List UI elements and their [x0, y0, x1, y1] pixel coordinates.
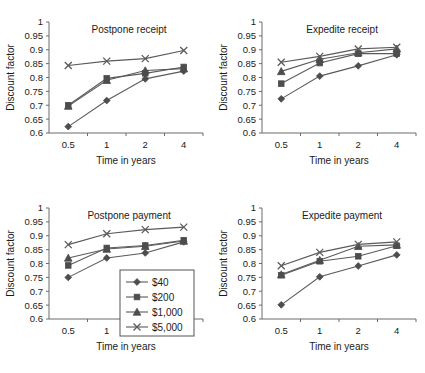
y-tick-label: 0.85 — [238, 244, 257, 255]
y-tick-label: 0.9 — [30, 230, 43, 241]
chart-svg-expedite-payment: 10.950.90.850.80.750.70.650.60.5124Time … — [213, 186, 425, 372]
data-point-square — [134, 294, 140, 300]
chart-panel-expedite-payment: 10.950.90.850.80.750.70.650.60.5124Time … — [213, 186, 425, 372]
data-point-diamond — [103, 255, 110, 262]
data-point-square — [355, 253, 361, 259]
y-tick-label: 0.8 — [243, 258, 256, 269]
x-tick-label: 2 — [356, 139, 361, 150]
chart-body-2: 10.950.90.850.80.750.70.650.60.5124Time … — [5, 202, 203, 352]
chart-body-0: 10.950.90.850.80.750.70.650.60.5124Time … — [5, 16, 203, 166]
x-tick-label: 1 — [104, 139, 109, 150]
y-axis-title: Discount factor — [5, 229, 16, 296]
series-line-40 — [281, 255, 397, 305]
legend-entry-label: $1,000 — [152, 307, 183, 318]
x-tick-label: 0.5 — [62, 325, 75, 336]
chart-svg-postpone-receipt: 10.950.90.850.80.750.70.650.60.5124Time … — [0, 0, 212, 186]
x-tick-label: 0.5 — [275, 325, 288, 336]
y-tick-label: 0.6 — [243, 313, 256, 324]
chart-panel-postpone-payment: 10.950.90.850.80.750.70.650.60.5124Time … — [0, 186, 212, 372]
data-point-diamond — [65, 274, 72, 281]
y-tick-label: 0.65 — [238, 300, 257, 311]
y-tick-label: 1 — [38, 16, 43, 27]
y-tick-label: 0.6 — [30, 127, 43, 138]
x-tick-label: 1 — [317, 325, 322, 336]
x-tick-label: 1 — [104, 325, 109, 336]
x-tick-label: 1 — [317, 139, 322, 150]
chart-body-3: 10.950.90.850.80.750.70.650.60.5124Time … — [218, 202, 416, 352]
y-tick-label: 0.65 — [25, 300, 44, 311]
series-line-200 — [281, 54, 397, 84]
y-tick-label: 1 — [251, 16, 256, 27]
data-point-diamond — [278, 95, 285, 102]
y-tick-label: 0.95 — [25, 216, 44, 227]
y-tick-label: 0.85 — [238, 58, 257, 69]
y-tick-label: 0.85 — [25, 244, 44, 255]
chart-panel-postpone-receipt: 10.950.90.850.80.750.70.650.60.5124Time … — [0, 0, 212, 186]
y-tick-label: 0.7 — [243, 100, 256, 111]
y-tick-label: 1 — [38, 202, 43, 213]
y-tick-label: 0.7 — [243, 286, 256, 297]
y-tick-label: 0.65 — [25, 114, 44, 125]
y-tick-label: 0.65 — [238, 114, 257, 125]
chart-svg-postpone-payment: 10.950.90.850.80.750.70.650.60.5124Time … — [0, 186, 212, 372]
data-point-diamond — [103, 97, 110, 104]
legend-entry-label: $5,000 — [152, 322, 183, 333]
legend-entry-label: $200 — [152, 292, 175, 303]
x-axis-title: Time in years — [96, 155, 156, 166]
x-tick-label: 0.5 — [275, 139, 288, 150]
y-tick-label: 0.9 — [243, 230, 256, 241]
chart-title: Postpone receipt — [92, 24, 167, 35]
data-point-diamond — [355, 62, 362, 69]
y-tick-label: 0.95 — [238, 216, 257, 227]
y-tick-label: 0.9 — [30, 44, 43, 55]
y-tick-label: 0.8 — [243, 72, 256, 83]
y-tick-label: 0.95 — [238, 30, 257, 41]
data-point-diamond — [65, 123, 72, 130]
y-tick-label: 0.8 — [30, 258, 43, 269]
y-tick-label: 0.75 — [25, 272, 44, 283]
chart-body-1: 10.950.90.850.80.750.70.650.60.5124Time … — [218, 16, 416, 166]
chart-panel-expedite-receipt: 10.950.90.850.80.750.70.650.60.5124Time … — [213, 0, 425, 186]
data-point-cross-x — [278, 262, 285, 269]
series-line-40 — [68, 71, 184, 127]
series-line-200 — [68, 67, 184, 105]
data-point-diamond — [393, 251, 400, 258]
series-line-40 — [281, 55, 397, 99]
y-tick-label: 0.95 — [25, 30, 44, 41]
chart-title: Expedite receipt — [306, 24, 378, 35]
series-line-5000 — [68, 51, 184, 66]
legend-entry-label: $40 — [152, 277, 169, 288]
x-tick-label: 2 — [356, 325, 361, 336]
y-tick-label: 0.75 — [25, 86, 44, 97]
y-tick-label: 0.7 — [30, 286, 43, 297]
data-point-square — [65, 263, 71, 269]
x-axis-title: Time in years — [309, 155, 369, 166]
y-tick-label: 0.9 — [243, 44, 256, 55]
chart-legend: $40$200$1,000$5,000 — [120, 270, 194, 336]
four-panel-chart-figure: 10.950.90.850.80.750.70.650.60.5124Time … — [0, 0, 425, 373]
y-tick-label: 1 — [251, 202, 256, 213]
y-tick-label: 0.6 — [30, 313, 43, 324]
data-point-square — [278, 81, 284, 87]
y-axis-title: Discount factor — [218, 229, 229, 296]
y-tick-label: 0.85 — [25, 58, 44, 69]
chart-title: Postpone payment — [87, 210, 171, 221]
y-tick-label: 0.7 — [30, 100, 43, 111]
y-tick-label: 0.6 — [243, 127, 256, 138]
x-tick-label: 4 — [394, 325, 399, 336]
x-tick-label: 4 — [181, 139, 186, 150]
data-point-cross-x — [65, 241, 72, 248]
y-tick-label: 0.8 — [30, 72, 43, 83]
data-point-diamond — [142, 250, 149, 257]
x-tick-label: 2 — [143, 139, 148, 150]
x-tick-label: 0.5 — [62, 139, 75, 150]
series-line-200 — [68, 240, 184, 265]
y-tick-label: 0.75 — [238, 272, 257, 283]
data-point-diamond — [355, 263, 362, 270]
y-axis-title: Discount factor — [5, 43, 16, 110]
data-point-diamond — [316, 73, 323, 80]
chart-title: Expedite payment — [302, 210, 382, 221]
x-axis-title: Time in years — [309, 341, 369, 352]
x-tick-label: 4 — [394, 139, 399, 150]
chart-svg-expedite-receipt: 10.950.90.850.80.750.70.650.60.5124Time … — [213, 0, 425, 186]
